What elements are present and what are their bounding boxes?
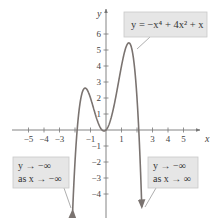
y-tick-label: 3 — [97, 77, 102, 87]
x-tick-label: 4 — [166, 134, 171, 144]
y-tick-label: 1 — [97, 109, 102, 119]
right-callout-line2: as x → ∞ — [153, 173, 191, 184]
y-tick-label: 5 — [97, 45, 102, 55]
equation-label: y = −x⁴ + 4x² + x — [131, 19, 204, 30]
y-tick-label: 4 — [97, 61, 102, 71]
left-end-behavior-callout: y → −∞ as x → −∞ — [13, 157, 71, 208]
y-axis-label: y — [96, 8, 102, 19]
x-tick-label: −5 — [24, 134, 34, 144]
x-tick-label: 1 — [119, 134, 124, 144]
y-tick-label: −2 — [91, 157, 101, 167]
x-tick-label: 3 — [150, 134, 155, 144]
x-axis: −5−4−3−11345 x — [12, 128, 210, 145]
y-tick-label: 2 — [97, 93, 102, 103]
y-tick-label: −1 — [91, 141, 101, 151]
right-end-behavior-callout: y → −∞ as x → ∞ — [145, 157, 198, 207]
right-callout-line1: y → −∞ — [153, 160, 186, 171]
y-tick-label: −3 — [91, 173, 101, 183]
y-axis: 654321−1−2−3−4 y — [91, 8, 108, 218]
polynomial-curve — [73, 43, 142, 211]
x-tick-label: −4 — [39, 134, 49, 144]
x-tick-label: 5 — [181, 134, 186, 144]
polynomial-graph: −5−4−3−11345 x 654321−1−2−3−4 y y = −x⁴ … — [0, 0, 220, 222]
y-tick-label: 6 — [97, 29, 102, 39]
y-tick-label: −4 — [91, 189, 101, 199]
left-callout-line1: y → −∞ — [18, 160, 51, 171]
x-axis-label: x — [204, 133, 210, 144]
equation-callout: y = −x⁴ + 4x² + x — [124, 12, 207, 49]
x-tick-label: −3 — [55, 134, 65, 144]
left-callout-line2: as x → −∞ — [18, 173, 62, 184]
